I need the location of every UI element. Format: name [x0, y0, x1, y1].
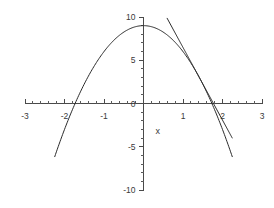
tangent-line — [167, 18, 232, 138]
y-tick-label: 5 — [131, 55, 136, 65]
x-tick-label: -1 — [100, 111, 108, 121]
chart-canvas: -3-2-1123-10-50510 x — [0, 0, 274, 208]
x-tick-label: -3 — [21, 111, 29, 121]
y-tick-label: 0 — [131, 99, 136, 109]
x-tick-label: 3 — [260, 111, 265, 121]
plot-svg: -3-2-1123-10-50510 x — [0, 0, 274, 208]
x-axis-label: x — [156, 126, 161, 136]
x-tick-label: -2 — [61, 111, 69, 121]
y-tick-label: -5 — [128, 142, 136, 152]
x-tick-label: 2 — [220, 111, 225, 121]
y-tick-label: -10 — [123, 185, 136, 195]
x-tick-label: 1 — [181, 111, 186, 121]
y-tick-label: 10 — [126, 12, 136, 22]
